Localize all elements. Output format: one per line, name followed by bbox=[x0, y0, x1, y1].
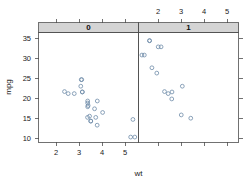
panel-0-border bbox=[39, 33, 139, 143]
data-point bbox=[95, 99, 99, 103]
data-point bbox=[80, 90, 84, 94]
x-top-tick-label-5: 5 bbox=[225, 7, 229, 16]
data-point bbox=[93, 107, 97, 111]
data-point bbox=[179, 113, 183, 117]
panel-1-border bbox=[139, 33, 239, 143]
panel-0-bottom-ticks: 2 3 4 5 bbox=[54, 142, 127, 157]
panel-1-datapoints bbox=[140, 39, 193, 120]
panel-0-top-ticks bbox=[56, 19, 125, 23]
data-point bbox=[189, 116, 193, 120]
y-axis-title: mpg bbox=[4, 79, 13, 95]
y-tick-label-30: 30 bbox=[23, 54, 31, 63]
data-point bbox=[133, 135, 137, 139]
x-tick-label-2: 2 bbox=[54, 148, 58, 157]
y-tick-label-35: 35 bbox=[23, 34, 31, 43]
data-point bbox=[170, 90, 174, 94]
data-point bbox=[166, 92, 170, 96]
panel-strip-1-label: 1 bbox=[186, 23, 191, 32]
y-tick-label-20: 20 bbox=[23, 94, 31, 103]
panel-strip-0-label: 0 bbox=[86, 23, 91, 32]
trellis-chart: 0 2 3 4 5 bbox=[0, 0, 252, 184]
x-top-tick-label-3: 3 bbox=[179, 7, 183, 16]
data-point bbox=[95, 123, 99, 127]
x-tick-label-3: 3 bbox=[77, 148, 81, 157]
panel-0-datapoints bbox=[63, 78, 137, 139]
panel-1-bottom-ticks bbox=[158, 142, 227, 146]
data-point bbox=[140, 53, 144, 57]
panel-0-left-ticks: 10 15 20 25 30 35 bbox=[23, 34, 39, 143]
data-point bbox=[148, 39, 152, 43]
data-point bbox=[66, 92, 70, 96]
data-point bbox=[180, 84, 184, 88]
data-point bbox=[163, 90, 167, 94]
chart-svg: 0 2 3 4 5 bbox=[0, 0, 252, 184]
data-point bbox=[94, 115, 98, 119]
x-tick-label-5: 5 bbox=[123, 148, 127, 157]
x-axis-title: wt bbox=[134, 169, 144, 178]
data-point bbox=[129, 135, 133, 139]
data-point bbox=[101, 111, 105, 115]
data-point bbox=[72, 92, 76, 96]
panel-1: 1 2 3 4 5 bbox=[139, 7, 243, 146]
panel-1-right-ticks bbox=[239, 38, 243, 138]
data-point bbox=[79, 84, 83, 88]
x-tick-label-4: 4 bbox=[100, 148, 104, 157]
x-top-tick-label-4: 4 bbox=[202, 7, 206, 16]
data-point bbox=[150, 66, 154, 70]
data-point bbox=[170, 97, 174, 101]
y-tick-label-15: 15 bbox=[23, 114, 31, 123]
panel-1-top-ticks: 2 3 4 5 bbox=[156, 7, 229, 23]
y-tick-label-25: 25 bbox=[23, 74, 31, 83]
panel-0: 0 2 3 4 5 bbox=[23, 19, 139, 158]
data-point bbox=[63, 90, 67, 94]
y-tick-label-10: 10 bbox=[23, 134, 31, 143]
data-point bbox=[155, 71, 159, 75]
data-point bbox=[89, 119, 93, 123]
x-top-tick-label-2: 2 bbox=[156, 7, 160, 16]
data-point bbox=[131, 118, 135, 122]
